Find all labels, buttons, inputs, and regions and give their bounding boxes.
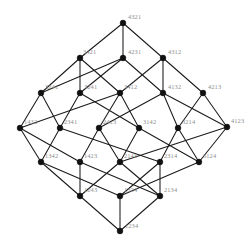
vertex-label: 1324 (124, 186, 138, 193)
lattice-edge (20, 128, 41, 162)
vertex-label: 3241 (45, 83, 58, 90)
vertex-label: 4312 (168, 48, 181, 55)
lattice-edge (163, 93, 178, 128)
vertex-label: 3214 (182, 118, 196, 125)
lattice-vertex[interactable] (157, 159, 163, 165)
vertex-label: 3412 (124, 83, 137, 90)
lattice-vertex[interactable] (200, 90, 206, 96)
vertex-label: 2314 (164, 152, 178, 159)
lattice-vertex[interactable] (117, 90, 123, 96)
vertex-label: 2143 (124, 152, 137, 159)
lattice-vertex[interactable] (160, 90, 166, 96)
vertex-label: 1342 (45, 152, 58, 159)
lattice-edge (178, 128, 199, 162)
lattice-vertex[interactable] (157, 193, 163, 199)
vertex-label: 2341 (64, 118, 77, 125)
lattice-edge (80, 196, 120, 231)
lattice-vertex[interactable] (17, 125, 23, 131)
vertex-label: 4132 (168, 83, 181, 90)
lattice-vertex[interactable] (224, 124, 230, 130)
lattice-vertex[interactable] (120, 20, 126, 26)
vertex-label: 2413 (103, 118, 116, 125)
lattice-vertex[interactable] (77, 90, 83, 96)
lattice-edge (203, 93, 227, 127)
lattice-vertex[interactable] (120, 55, 126, 61)
edges-group (20, 23, 227, 231)
vertex-label: 4123 (231, 117, 244, 124)
vertex-label: 3142 (143, 118, 156, 125)
lattice-vertex[interactable] (117, 228, 123, 234)
vertex-label: 3241 (84, 83, 97, 90)
lattice-vertex[interactable] (175, 125, 181, 131)
vertex-label: 1432 (24, 118, 37, 125)
vertex-label: 3124 (203, 152, 217, 159)
lattice-vertex[interactable] (77, 193, 83, 199)
lattice-vertex[interactable] (57, 125, 63, 131)
lattice-edge (99, 128, 120, 162)
permutohedron-diagram: 4321342142314312324132413412413242131432… (0, 0, 248, 246)
vertex-label: 3421 (83, 48, 96, 55)
lattice-vertex[interactable] (117, 159, 123, 165)
lattice-edge (41, 93, 60, 128)
vertex-label: 4321 (128, 13, 141, 20)
lattice-vertex[interactable] (136, 125, 142, 131)
vertex-label: 1234 (125, 222, 139, 229)
vertex-label: 1423 (84, 152, 97, 159)
lattice-vertex[interactable] (77, 159, 83, 165)
vertex-label: 1243 (84, 186, 97, 193)
lattice-vertex[interactable] (196, 159, 202, 165)
vertex-label: 4213 (208, 83, 221, 90)
vertex-label: 4231 (128, 48, 141, 55)
lattice-vertex[interactable] (160, 55, 166, 61)
lattice-edge (41, 162, 80, 196)
lattice-vertex[interactable] (77, 55, 83, 61)
lattice-vertex[interactable] (38, 159, 44, 165)
lattice-vertex[interactable] (117, 193, 123, 199)
lattice-vertex[interactable] (96, 125, 102, 131)
lattice-vertex[interactable] (38, 90, 44, 96)
lattice-graph: 4321342142314312324132413412413242131432… (0, 0, 248, 246)
vertex-label: 2134 (164, 186, 178, 193)
nodes-group: 4321342142314312324132413412413242131432… (17, 13, 244, 233)
